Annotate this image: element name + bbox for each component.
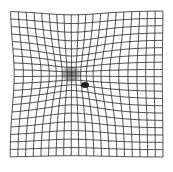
grid-line <box>49 14 57 156</box>
grid-line <box>33 13 41 157</box>
grid-line <box>14 62 163 67</box>
grid-line <box>11 11 163 15</box>
grid-line <box>12 113 163 120</box>
grid-line <box>101 13 109 156</box>
grid-line <box>13 48 163 56</box>
grid-line <box>14 69 162 71</box>
grid-line <box>11 26 163 33</box>
grid-line <box>11 122 163 128</box>
dark-spot <box>81 82 89 88</box>
grid-line <box>56 14 62 155</box>
grid-line <box>41 13 49 156</box>
grid-line <box>93 13 101 156</box>
grid-line <box>110 12 117 156</box>
grid-line <box>26 12 33 156</box>
amsler-grid <box>0 0 173 172</box>
grid-line <box>12 40 162 48</box>
grid-line <box>18 12 23 157</box>
grid-line <box>14 76 162 77</box>
grid-line <box>10 12 14 157</box>
grid-line <box>128 12 132 157</box>
grid-line <box>11 18 163 23</box>
grid-line <box>13 97 163 106</box>
grid-line <box>12 105 163 113</box>
central-scotoma <box>60 65 82 83</box>
grid-line <box>119 12 125 157</box>
grid-line <box>11 131 163 135</box>
grid-line <box>12 33 163 41</box>
